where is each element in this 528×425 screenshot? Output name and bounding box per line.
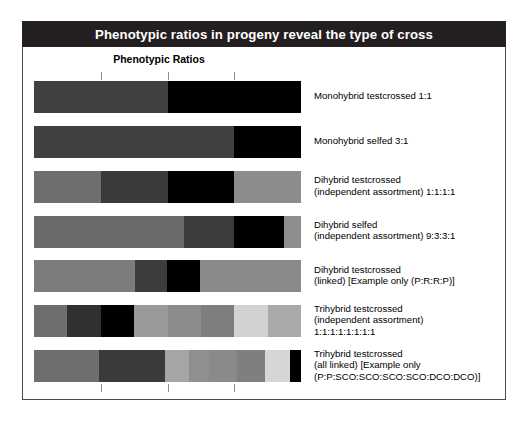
axis-title: Phenotypic Ratios [23,53,295,65]
bar-segment [168,81,302,113]
bar-segment [234,171,301,203]
tick-row-bottom [34,384,301,392]
legend-entry: Dihybrid selfed(independent assortment) … [314,219,504,242]
bar-segment [189,350,209,382]
bar-segment [168,305,201,337]
legend-label-line: Trihybrid testcrossed [314,348,504,360]
bar-segment [184,216,234,248]
legend-entry: Monohybrid selfed 3:1 [314,135,504,147]
legend-label-line: (independent assortment) 1:1:1:1 [314,186,504,198]
bar-segment [99,350,164,382]
bar-segment [34,81,168,113]
legend-entry: Dihybrid testcrossed(independent assortm… [314,174,504,197]
legend-label-line: (P:P:SCO:SCO:SCO:SCO:DCO:DCO)] [314,371,504,383]
legend-label-line: Monohybrid selfed 3:1 [314,135,504,147]
legend-label-line: (linked) [Example only (P:R:R:P)] [314,275,504,287]
bar-segment [34,260,135,292]
tick-row-top [34,72,301,80]
bar-segment [201,305,234,337]
legend-label-line: Monohybrid testcrossed 1:1 [314,90,504,102]
bar-segment [34,216,184,248]
bar-row [34,305,301,337]
legend-label-line: 1:1:1:1:1:1:1:1 [314,326,504,338]
legend-label-line: (independent assortment) [314,314,504,326]
bar-segment [290,350,301,382]
axis-tick [168,72,169,80]
axis-tick [168,384,169,392]
bar-segment [168,171,235,203]
legend-label-line: (all linked) [Example only [314,359,504,371]
axis-tick [101,384,102,392]
legend-entry: Trihybrid testcrossed(all linked) [Examp… [314,348,504,383]
bar-segment [34,350,99,382]
bar-segment [284,216,301,248]
figure-panel: Phenotypic Ratios Monohybrid testcrossed… [22,47,506,400]
bar-row [34,126,301,158]
bar-segment [34,171,101,203]
plot-area [34,72,301,392]
figure-title-bar: Phenotypic ratios in progeny reveal the … [22,21,506,47]
bar-segment [200,260,301,292]
bar-segment [265,350,290,382]
bar-segment [101,171,168,203]
legend-entry: Trihybrid testcrossed(independent assort… [314,303,504,338]
bar-row [34,171,301,203]
axis-tick [234,384,235,392]
bar-segment [101,305,134,337]
figure-title: Phenotypic ratios in progeny reveal the … [95,27,433,42]
legend-label-line: Trihybrid testcrossed [314,303,504,315]
bar-segment [209,350,237,382]
bar-segment [167,260,199,292]
legend-label-line: Dihybrid testcrossed [314,174,504,186]
axis-tick [234,72,235,80]
legend-label-line: (independent assortment) 9:3:3:1 [314,230,504,242]
bar-segment [34,305,67,337]
bar-segment [135,260,167,292]
bar-segment [134,305,167,337]
figure-container: Phenotypic ratios in progeny reveal the … [22,21,506,400]
bar-segment [237,350,265,382]
bar-segment [67,305,100,337]
bar-segment [234,305,267,337]
axis-tick [101,72,102,80]
legend-entry: Monohybrid testcrossed 1:1 [314,90,504,102]
legend-label-line: Dihybrid selfed [314,219,504,231]
legend-entry: Dihybrid testcrossed(linked) [Example on… [314,264,504,287]
legend-label-line: Dihybrid testcrossed [314,264,504,276]
bar-segment [165,350,189,382]
bar-segment [268,305,301,337]
bar-stack-group [34,81,301,382]
bar-segment [234,216,284,248]
bar-segment [34,126,234,158]
bar-row [34,260,301,292]
bar-row [34,81,301,113]
bar-row [34,350,301,382]
bar-row [34,216,301,248]
bar-segment [234,126,301,158]
